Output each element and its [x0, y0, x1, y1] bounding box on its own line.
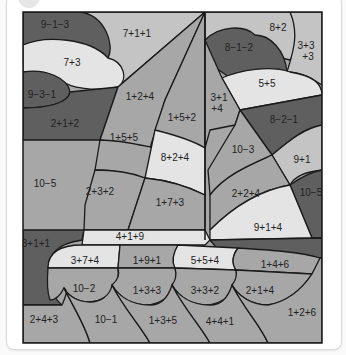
sailboat-picture: 9−1−3 7+1+1 7+3 9−3−1 2+1+2 1+2+4 1+5+2 … [0, 0, 346, 355]
label-sail-right-2: 2+2+4 [232, 188, 261, 199]
label-hull-3: 5+5+4 [191, 255, 220, 266]
label-sail-left-3: 1+5+5 [110, 132, 139, 143]
label-sail-right-1: 10−3 [232, 144, 255, 155]
label-hull-1: 3+7+4 [71, 255, 100, 266]
label-hull-4: 1+4+6 [261, 259, 290, 270]
label-water-2: 10−1 [95, 314, 118, 325]
label-sky-left: 2+1+2 [51, 118, 80, 129]
label-cloud1-mid: 7+3 [64, 57, 81, 68]
label-hull-2: 1+9+1 [133, 255, 162, 266]
label-sea-left-2: 3+1+1 [22, 238, 51, 249]
label-sail-left-2: 1+5+2 [168, 112, 197, 123]
label-sea-left: 10−5 [34, 178, 57, 189]
label-sky-right-2: 9+1 [294, 154, 311, 165]
label-water-3: 1+3+5 [149, 315, 178, 326]
label-water-5: 1+2+6 [288, 307, 317, 318]
label-boom: 4+1+9 [116, 231, 145, 242]
region-boom[interactable] [82, 230, 210, 245]
label-wave-1: 10−2 [73, 283, 96, 294]
label-water-1: 2+4+3 [30, 314, 59, 325]
label-cloud2-top-right: 8+2 [270, 22, 287, 33]
label-wave-4: 2+1+4 [246, 285, 275, 296]
label-sail-left-1: 1+2+4 [126, 91, 155, 102]
label-sky-top: 7+1+1 [123, 28, 152, 39]
label-sail-left-4: 8+2+4 [161, 152, 190, 163]
label-cloud2-mid: 5+5 [259, 78, 276, 89]
label-cloud2-top-left: 8−1−2 [225, 42, 254, 53]
label-wave-3: 3+3+2 [191, 285, 220, 296]
label-sail-left-6: 1+7+3 [156, 197, 185, 208]
label-sea-right: 10−5 [300, 187, 323, 198]
label-sail-right-3: 9+1+4 [254, 222, 283, 233]
label-cloud1-bottom: 9−3−1 [28, 89, 57, 100]
label-cloud1-top: 9−1−3 [41, 19, 70, 30]
label-sky-right: 8−2−1 [270, 114, 299, 125]
label-sail-left-5: 2+3+2 [86, 186, 115, 197]
label-water-4: 4+4+1 [206, 316, 235, 327]
label-wave-2: 1+3+3 [133, 285, 162, 296]
